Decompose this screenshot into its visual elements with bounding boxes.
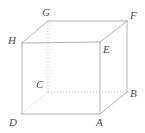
vertex-label-d: D bbox=[9, 117, 17, 128]
vertex-label-a: A bbox=[96, 117, 103, 128]
edge-HG bbox=[22, 21, 48, 43]
hidden-edge-group bbox=[22, 21, 127, 114]
edge-EF bbox=[100, 21, 127, 42]
edge-CD bbox=[22, 92, 48, 114]
edge-AB bbox=[100, 92, 127, 114]
cube-figure: ABCDEFGH bbox=[0, 0, 145, 133]
vertex-label-c: C bbox=[36, 79, 43, 90]
edge-HE bbox=[22, 42, 100, 43]
cube-svg bbox=[0, 0, 145, 133]
visible-edge-group bbox=[22, 21, 127, 114]
vertex-label-g: G bbox=[42, 7, 50, 18]
vertex-label-b: B bbox=[130, 88, 137, 99]
vertex-label-h: H bbox=[8, 35, 16, 46]
vertex-label-f: F bbox=[130, 10, 137, 21]
vertex-label-e: E bbox=[103, 44, 110, 55]
